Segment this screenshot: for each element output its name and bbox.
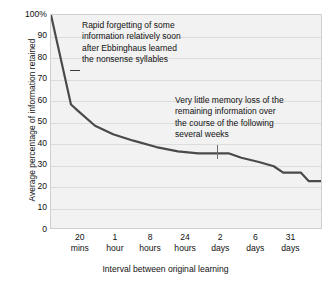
x-tick-label: 31days [267,232,313,253]
y-tick-label: 0 [21,225,47,234]
annotation-little-memory-loss: Very little memory loss of the remaining… [175,95,284,140]
annotation-1-leader-icon [70,70,80,71]
y-tick-label: 40 [21,139,47,148]
annotation-2-leader-icon [217,145,218,159]
y-tick-label: 60 [21,96,47,105]
x-axis-tick-labels: 20mins1hour8hours24hours2days6days31days [50,232,322,262]
y-tick-label: 80 [21,53,47,62]
y-tick-label: 20 [21,182,47,191]
x-tick-unit: days [267,243,313,254]
forgetting-curve-chart: Average percentage of information retain… [0,0,331,284]
y-tick-label: 10 [21,203,47,212]
annotation-rapid-forgetting: Rapid forgetting of some information rel… [82,20,181,65]
y-tick-label: 30 [21,160,47,169]
y-tick-label: 70 [21,74,47,83]
y-tick-label: 100% [21,10,47,19]
x-tick-value: 31 [267,232,313,243]
y-tick-label: 50 [21,117,47,126]
y-axis-tick-labels: 100%9080706050403020100 [16,0,47,284]
y-tick-label: 90 [21,31,47,40]
x-axis-title: Interval between original learning [0,264,331,274]
